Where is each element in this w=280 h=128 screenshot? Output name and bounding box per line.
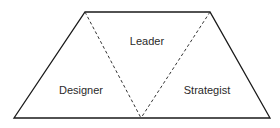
diagram-shapes: [0, 0, 280, 128]
strategist-label: Strategist: [184, 84, 230, 96]
role-diagram: Leader Designer Strategist: [0, 0, 280, 128]
designer-label: Designer: [59, 84, 103, 96]
right-dashed-divider: [141, 12, 210, 118]
trapezoid-outline: [14, 12, 270, 118]
left-dashed-divider: [85, 12, 141, 118]
leader-label: Leader: [130, 35, 164, 47]
